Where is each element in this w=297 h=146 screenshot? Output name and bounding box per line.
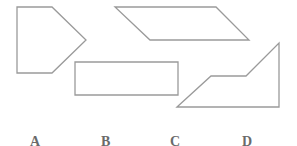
parallelogram-shape	[115, 7, 249, 40]
option-b[interactable]: B 2	[87, 118, 110, 146]
option-a[interactable]: A 1	[16, 118, 40, 146]
rectangle-shape	[75, 62, 178, 95]
trapezoid-shape	[177, 43, 279, 107]
option-d[interactable]: D 4	[228, 118, 252, 146]
option-letter: D	[242, 134, 252, 146]
answer-options: A 1 B 2 C 3 D 4	[0, 118, 297, 138]
option-letter: A	[30, 134, 40, 146]
option-letter: B	[101, 134, 110, 146]
option-c[interactable]: C 3	[156, 118, 180, 146]
option-letter: C	[170, 134, 180, 146]
